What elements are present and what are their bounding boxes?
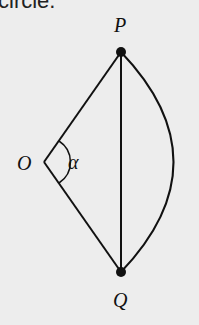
label-p: P	[113, 14, 126, 36]
sector-diagram: P Q O α	[0, 0, 199, 325]
label-alpha: α	[68, 151, 79, 173]
label-o: O	[17, 152, 31, 174]
segment-oq	[44, 162, 121, 272]
segment-op	[44, 52, 121, 162]
arc-pq	[121, 52, 174, 272]
point-q-dot	[116, 267, 126, 277]
point-p-dot	[116, 47, 126, 57]
label-q: Q	[113, 289, 128, 311]
